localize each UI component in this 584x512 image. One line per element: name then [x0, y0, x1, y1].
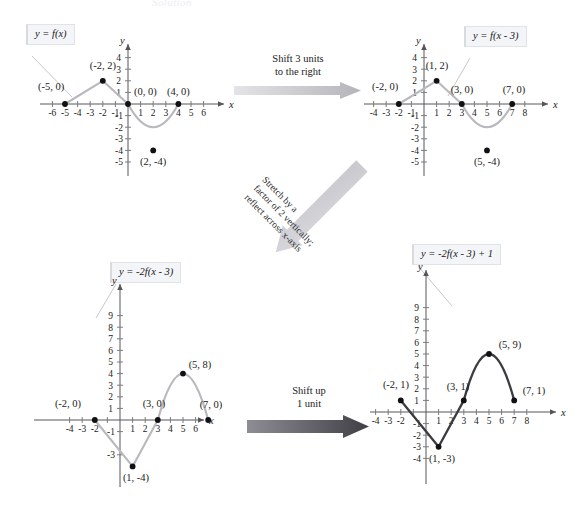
data-point — [434, 78, 440, 84]
y-tick-label: 3 — [116, 65, 121, 75]
y-tick-label: 7 — [108, 334, 113, 344]
data-point — [155, 417, 161, 423]
transition-caption: Shift up 1 unit — [250, 384, 368, 410]
curve-parabola-part — [464, 354, 514, 400]
x-tick-label: 1 — [436, 416, 441, 426]
point-label: (-2, 0) — [372, 81, 399, 93]
x-tick-label: -2 — [91, 424, 99, 434]
arrow-graphic — [234, 82, 362, 104]
x-tick-label: -4 — [370, 108, 378, 118]
graph-panel-f: y = f(x) — [10, 18, 240, 183]
y-axis-label: y — [415, 35, 421, 46]
y-tick-label: 5 — [108, 357, 113, 367]
x-tick-label: 4 — [168, 424, 173, 434]
y-axis-arrowhead — [117, 284, 123, 290]
data-point — [459, 101, 465, 107]
x-tick-label: 8 — [524, 416, 529, 426]
x-tick-label: -3 — [78, 424, 86, 434]
data-point — [125, 101, 131, 107]
y-tick-label: 2 — [116, 76, 121, 86]
y-tick-label: -1 — [115, 111, 123, 121]
y-tick-label: 6 — [108, 346, 113, 356]
x-tick-label: 1 — [138, 108, 143, 118]
x-tick-label: 2 — [151, 108, 156, 118]
y-tick-label: 2 — [108, 392, 113, 402]
point-label: (3, 0) — [143, 398, 166, 410]
x-tick-label: 6 — [497, 108, 502, 118]
x-axis-arrowhead — [198, 417, 204, 423]
x-axis-arrowhead — [542, 101, 548, 107]
x-tick-label: 3 — [155, 424, 160, 434]
y-tick-label: -4 — [413, 454, 421, 464]
x-tick-label: -4 — [66, 424, 74, 434]
x-tick-label: 8 — [522, 108, 527, 118]
x-tick-label: -2 — [395, 108, 403, 118]
x-tick-label: -2 — [397, 416, 405, 426]
curve-linear-part — [401, 400, 464, 446]
x-tick-label: -2 — [99, 108, 107, 118]
x-tick-label: 3 — [163, 108, 168, 118]
x-tick-label: 2 — [447, 108, 452, 118]
x-axis-arrowhead — [218, 101, 224, 107]
y-tick-label: -3 — [107, 450, 115, 460]
point-label: (3, 1) — [447, 381, 470, 393]
y-axis-label: y — [417, 261, 423, 272]
y-tick-label: -4 — [115, 146, 123, 156]
data-point — [176, 101, 182, 107]
data-point — [511, 398, 517, 404]
data-point — [398, 398, 404, 404]
point-label: (-2, 1) — [383, 379, 410, 391]
point-label: (1, -4) — [123, 472, 150, 484]
x-tick-label: -4 — [74, 108, 82, 118]
y-tick-label: -2 — [115, 123, 123, 133]
point-label: (5, 8) — [189, 359, 212, 371]
point-label: (7, 0) — [503, 84, 526, 96]
y-tick-label: 1 — [414, 396, 419, 406]
data-point — [100, 78, 106, 84]
x-tick-label: -4 — [372, 416, 380, 426]
x-tick-label: 5 — [189, 108, 194, 118]
y-tick-label: 8 — [414, 315, 419, 325]
arrow-graphic — [247, 415, 375, 439]
y-tick-label: -2 — [413, 431, 421, 441]
x-tick-label: 4 — [176, 108, 181, 118]
x-tick-label: 4 — [474, 416, 479, 426]
x-tick-label: -3 — [86, 108, 94, 118]
y-tick-label: 7 — [414, 326, 419, 336]
x-axis-label: x — [552, 99, 558, 110]
x-tick-label: -3 — [384, 416, 392, 426]
y-axis-arrowhead — [421, 44, 427, 50]
point-label: (1, -3) — [429, 453, 456, 465]
x-tick-label: 2 — [143, 424, 148, 434]
data-point — [461, 398, 467, 404]
plot-neg2f-plus1: -4 -3 -2 1 2 3 4 5 6 7 8 9 8 7 6 5 4 3 2… — [366, 246, 584, 498]
caption-line-1: Shift up — [292, 385, 326, 396]
x-axis-label: x — [560, 407, 566, 418]
point-label: (5, 9) — [499, 339, 522, 351]
plot-f: -6 -5 -4 -3 -2 -1 1 2 3 4 5 6 4 3 2 1 -1… — [10, 18, 240, 183]
point-label: (5, -4) — [474, 156, 501, 168]
data-point — [92, 417, 98, 423]
point-label: (1, 2) — [426, 60, 449, 72]
y-tick-label: 4 — [116, 53, 121, 63]
transition-shift-up: Shift up 1 unit — [250, 384, 378, 434]
x-tick-label: 5 — [487, 416, 492, 426]
data-point — [130, 464, 136, 470]
caption-line-2: 1 unit — [297, 398, 321, 409]
data-point — [180, 371, 186, 377]
figure-canvas: Solution y = f(x) — [0, 0, 584, 512]
y-tick-label: -4 — [411, 146, 419, 156]
x-tick-label: 5 — [181, 424, 186, 434]
x-tick-label: -3 — [382, 108, 390, 118]
caption-line-2: to the right — [275, 66, 321, 77]
y-tick-label: -3 — [411, 134, 419, 144]
x-tick-label: 5 — [485, 108, 490, 118]
x-axis-arrowhead — [550, 409, 556, 415]
x-tick-label: 4 — [472, 108, 477, 118]
graph-panel-neg2f: y = -2f(x - 3) — [20, 262, 250, 502]
y-tick-label: -3 — [115, 134, 123, 144]
y-tick-label: 3 — [412, 65, 417, 75]
x-tick-label: -6 — [48, 108, 56, 118]
y-tick-label: 9 — [108, 311, 113, 321]
x-tick-label: 7 — [512, 416, 517, 426]
